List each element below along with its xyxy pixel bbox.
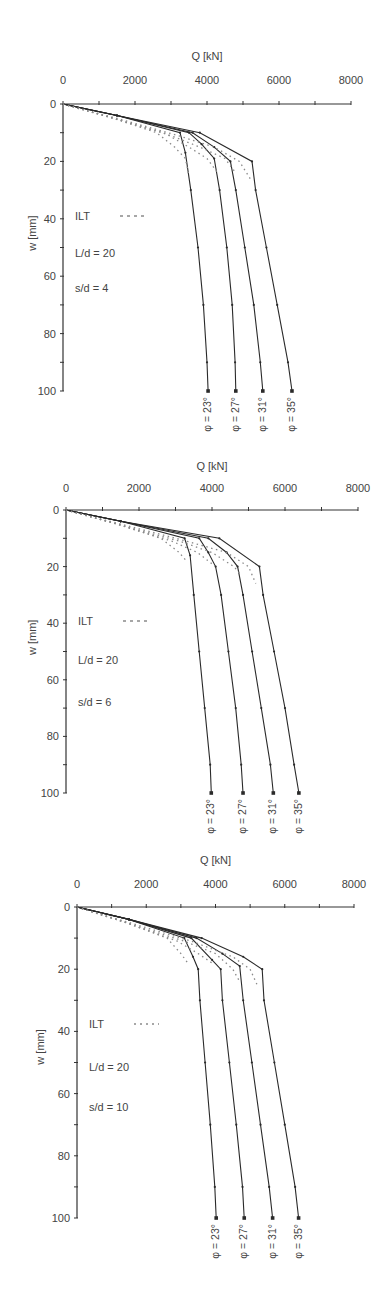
data-marker bbox=[197, 968, 199, 970]
series-phi-27: φ = 27° bbox=[77, 907, 249, 1259]
y-tick-label: 40 bbox=[47, 617, 59, 629]
data-marker bbox=[234, 361, 236, 363]
phi-label: φ = 27° bbox=[237, 1224, 249, 1259]
data-marker bbox=[231, 304, 233, 306]
data-marker bbox=[284, 707, 286, 709]
end-marker bbox=[234, 389, 238, 393]
data-marker bbox=[227, 650, 229, 652]
data-marker bbox=[184, 152, 186, 154]
data-marker bbox=[258, 566, 260, 568]
data-marker bbox=[239, 965, 241, 967]
data-marker bbox=[220, 594, 222, 596]
legend-label-ilt: ILT bbox=[78, 615, 93, 627]
y-tick-label: 0 bbox=[64, 901, 70, 913]
data-marker bbox=[273, 1061, 275, 1063]
annotation-length-diameter: L/d = 20 bbox=[78, 654, 118, 666]
x-tick-label: 2000 bbox=[123, 74, 147, 86]
y-tick-label: 20 bbox=[47, 561, 59, 573]
model-curve bbox=[66, 510, 243, 793]
data-marker bbox=[190, 189, 192, 191]
end-marker bbox=[297, 1216, 301, 1220]
annotation-spacing-diameter: s/d = 10 bbox=[89, 1101, 128, 1113]
y-tick-label: 60 bbox=[58, 1088, 70, 1100]
x-axis-title: Q [kN] bbox=[196, 460, 227, 472]
data-marker bbox=[116, 114, 118, 116]
data-marker bbox=[221, 953, 223, 955]
data-marker bbox=[293, 764, 295, 766]
y-tick-label: 80 bbox=[44, 328, 56, 340]
data-marker bbox=[260, 707, 262, 709]
end-marker bbox=[214, 1216, 218, 1220]
data-marker bbox=[265, 246, 267, 248]
y-tick-label: 100 bbox=[41, 787, 59, 799]
data-marker bbox=[259, 361, 261, 363]
end-marker bbox=[290, 389, 294, 393]
data-marker bbox=[192, 956, 194, 958]
y-tick-label: 100 bbox=[52, 1212, 70, 1224]
x-tick-label: 0 bbox=[74, 878, 80, 890]
data-marker bbox=[204, 1061, 206, 1063]
data-marker bbox=[199, 132, 201, 134]
data-marker bbox=[242, 956, 244, 958]
x-tick-label: 8000 bbox=[342, 878, 366, 890]
data-marker bbox=[206, 361, 208, 363]
data-marker bbox=[211, 959, 213, 961]
pile-load-settlement-figure: Q [kN]02000400060008000020406080100w [mm… bbox=[0, 0, 391, 1301]
data-marker bbox=[263, 999, 265, 1001]
end-marker bbox=[271, 1216, 275, 1220]
x-tick-label: 2000 bbox=[127, 482, 151, 494]
series-phi-35: φ = 35° bbox=[77, 907, 304, 1259]
model-curve bbox=[66, 510, 299, 793]
y-tick-label: 60 bbox=[44, 270, 56, 282]
end-marker bbox=[209, 791, 213, 795]
annotation-length-diameter: L/d = 20 bbox=[75, 247, 115, 259]
data-marker bbox=[215, 566, 217, 568]
data-marker bbox=[261, 968, 263, 970]
phi-label: φ = 27° bbox=[236, 799, 248, 834]
data-marker bbox=[199, 999, 201, 1001]
model-curve bbox=[66, 510, 211, 793]
y-tick-label: 40 bbox=[44, 213, 56, 225]
data-marker bbox=[284, 1124, 286, 1126]
data-marker bbox=[235, 1124, 237, 1126]
data-marker bbox=[197, 246, 199, 248]
series-phi-27: φ = 27° bbox=[66, 510, 248, 834]
data-marker bbox=[287, 361, 289, 363]
data-marker bbox=[213, 157, 215, 159]
data-marker bbox=[201, 143, 203, 145]
phi-label: φ = 23° bbox=[209, 1224, 221, 1259]
data-marker bbox=[259, 1124, 261, 1126]
data-marker bbox=[214, 1186, 216, 1188]
y-tick-label: 80 bbox=[58, 1150, 70, 1162]
data-marker bbox=[229, 160, 231, 162]
data-marker bbox=[276, 304, 278, 306]
end-marker bbox=[241, 791, 245, 795]
data-marker bbox=[128, 918, 130, 920]
x-tick-label: 8000 bbox=[346, 482, 370, 494]
end-marker bbox=[272, 791, 276, 795]
y-axis-title: w [mm] bbox=[26, 620, 38, 656]
data-marker bbox=[253, 304, 255, 306]
data-marker bbox=[220, 968, 222, 970]
data-marker bbox=[219, 189, 221, 191]
data-marker bbox=[226, 246, 228, 248]
legend-label-ilt: ILT bbox=[89, 1018, 104, 1030]
phi-label: φ = 31° bbox=[256, 397, 268, 432]
end-marker bbox=[242, 1216, 246, 1220]
phi-label: φ = 23° bbox=[204, 799, 216, 834]
data-marker bbox=[207, 551, 209, 553]
data-marker bbox=[235, 189, 237, 191]
data-marker bbox=[198, 537, 200, 539]
y-axis-title: w [mm] bbox=[26, 215, 38, 251]
x-tick-label: 0 bbox=[60, 74, 66, 86]
x-tick-label: 6000 bbox=[267, 74, 291, 86]
y-tick-label: 0 bbox=[50, 98, 56, 110]
data-marker bbox=[236, 566, 238, 568]
ilt-curve bbox=[63, 104, 189, 176]
data-marker bbox=[251, 1061, 253, 1063]
data-marker bbox=[179, 132, 181, 134]
data-marker bbox=[242, 594, 244, 596]
data-marker bbox=[228, 1061, 230, 1063]
ilt-curve bbox=[66, 510, 186, 561]
y-tick-label: 40 bbox=[58, 1025, 70, 1037]
